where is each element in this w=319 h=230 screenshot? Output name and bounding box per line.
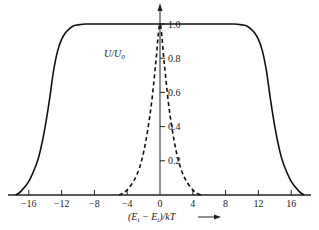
x-axis-label-mid: − E: [139, 211, 157, 222]
x-axis-label-open: (E: [128, 211, 137, 223]
x-tick-label: 8: [223, 198, 228, 209]
x-tick-label: 0: [158, 198, 163, 209]
y-tick-label: 0.4: [168, 121, 181, 132]
x-tick-label: −16: [21, 198, 37, 209]
y-tick-label: 0.2: [168, 155, 181, 166]
x-tick-label: 16: [286, 198, 296, 209]
x-tick-label: −4: [122, 198, 133, 209]
y-axis-label-main: U/U: [104, 48, 122, 59]
right-arrow-icon: [214, 215, 221, 220]
y-tick-label: 0.8: [168, 53, 181, 64]
chart: −16−12−8−40481216 0.20.40.60.81.0 U/U0 (…: [0, 0, 319, 230]
x-axis-label: (Et − Ei)/kT: [128, 211, 177, 224]
x-tick-label: −12: [54, 198, 70, 209]
x-tick-label: 4: [190, 198, 195, 209]
y-axis-label: U/U0: [104, 48, 125, 61]
x-axis-label-close: )/kT: [158, 211, 177, 223]
x-tick-label: −8: [89, 198, 100, 209]
x-axis-title: (Et − Ei)/kT: [128, 211, 221, 224]
y-tick-label: 0.6: [168, 87, 181, 98]
y-axis-arrow-icon: [158, 3, 163, 11]
x-tick-label: 12: [253, 198, 263, 209]
y-axis-label-sub: 0: [121, 53, 125, 61]
